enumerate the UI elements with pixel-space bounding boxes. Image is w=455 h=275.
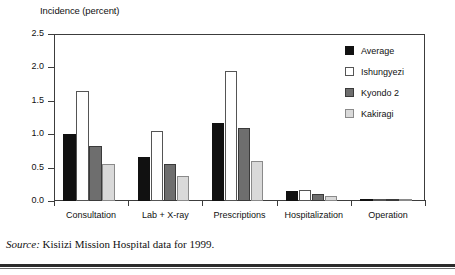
y-axis-title: Incidence (percent) (40, 5, 119, 16)
source-note: Source: Kisiizi Mission Hospital data fo… (6, 238, 214, 250)
legend-swatch-kyondo-2-icon (345, 88, 354, 97)
legend-item[interactable]: Average (345, 40, 404, 61)
bar-kakiragi (177, 176, 190, 201)
legend-label-average: Average (361, 46, 394, 56)
legend-item[interactable]: Kyondo 2 (345, 82, 404, 103)
bar-average (63, 134, 76, 201)
legend-label-kakiragi: Kakiragi (361, 109, 394, 119)
bar-average (360, 199, 373, 201)
bar-ishungyezi (299, 190, 312, 201)
bar-kyondo-2 (312, 194, 325, 201)
legend-item[interactable]: Ishungyezi (345, 61, 404, 82)
x-axis-tick (425, 200, 426, 206)
figure-container: Incidence (percent) 0.00.51.01.52.02.5 C… (0, 0, 455, 275)
y-axis-tick-label: 2.5 (4, 28, 44, 38)
bar-ishungyezi (225, 71, 238, 201)
bar-kakiragi (102, 164, 115, 201)
x-axis-category-label: Prescriptions (202, 210, 276, 220)
y-axis-tick-label: 0.5 (4, 162, 44, 172)
bar-kyondo-2 (386, 199, 399, 201)
bar-ishungyezi (373, 199, 386, 201)
bar-kyondo-2 (89, 146, 102, 201)
bar-group (277, 34, 351, 201)
legend-label-kyondo-2: Kyondo 2 (361, 88, 399, 98)
source-label: Source: (6, 238, 40, 250)
bar-average (212, 123, 225, 201)
y-axis-tick-label: 0.0 (4, 195, 44, 205)
bar-group (128, 34, 202, 201)
y-axis-tick-label: 1.5 (4, 95, 44, 105)
x-axis-category-label: Operation (351, 210, 425, 220)
bar-ishungyezi (76, 91, 89, 201)
bar-kyondo-2 (164, 164, 177, 201)
bar-kakiragi (399, 199, 412, 201)
bar-kakiragi (251, 161, 264, 201)
bar-average (138, 157, 151, 201)
bar-kakiragi (325, 196, 338, 201)
bar-kyondo-2 (238, 128, 251, 201)
footer-rule-thin (0, 268, 455, 269)
legend-swatch-ishungyezi-icon (345, 67, 354, 76)
bar-group (54, 34, 128, 201)
legend-label-ishungyezi: Ishungyezi (361, 67, 404, 77)
y-axis-tick-label: 2.0 (4, 61, 44, 71)
bar-ishungyezi (151, 131, 164, 201)
footer-rule (0, 264, 455, 267)
legend-swatch-kakiragi-icon (345, 109, 354, 118)
legend-swatch-average-icon (345, 46, 354, 55)
chart-legend: Average Ishungyezi Kyondo 2 Kakiragi (345, 40, 404, 124)
x-axis-category-label: Consultation (54, 210, 128, 220)
bar-average (286, 191, 299, 201)
y-axis-tick-label: 1.0 (4, 128, 44, 138)
x-axis-category-label: Lab + X-ray (128, 210, 202, 220)
source-text: Kisiizi Mission Hospital data for 1999. (40, 238, 214, 250)
bar-group (202, 34, 276, 201)
legend-item[interactable]: Kakiragi (345, 103, 404, 124)
x-axis-category-label: Hospitalization (277, 210, 351, 220)
